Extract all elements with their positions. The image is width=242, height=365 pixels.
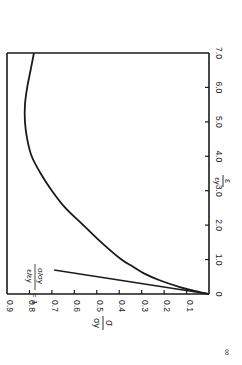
chart: 01.02.03.04.05.06.07.0 0.10.20.30.40.50.… — [0, 0, 242, 365]
elastic-line — [54, 270, 209, 294]
x-tick-label: 0 — [214, 292, 224, 297]
y-axis-label: σ σy — [92, 316, 115, 330]
footer-mark: ∞ — [222, 349, 232, 355]
y-axis-label-denominator: σy — [92, 318, 102, 329]
y-axis-label-numerator: σ — [104, 320, 115, 327]
annotation-numerator: σ/σy — [36, 268, 45, 284]
x-axis-tick-labels: 01.02.03.04.05.06.07.0 — [214, 47, 224, 297]
x-axis-label-denominator: εy — [213, 177, 222, 185]
x-tick-label: 4.0 — [214, 150, 224, 162]
annotation-rhs: = 1 — [30, 293, 39, 305]
plot-frame — [7, 53, 209, 294]
y-tick-label: 0.6 — [72, 300, 82, 312]
data-series — [25, 53, 209, 294]
y-tick-label: 0.5 — [95, 300, 105, 312]
x-tick-label: 2.0 — [214, 219, 224, 231]
annotation-denominator: ε/εy — [25, 269, 34, 282]
y-tick-label: 0.4 — [117, 300, 127, 312]
x-axis-label-numerator: ε — [223, 179, 233, 183]
stress-strain-curve — [25, 53, 209, 294]
y-tick-label: 0.3 — [140, 300, 150, 312]
y-tick-label: 0.1 — [185, 300, 195, 312]
y-tick-label: 0.9 — [5, 300, 15, 312]
y-tick-label: 0.2 — [162, 300, 172, 312]
x-tick-label: 3.0 — [214, 185, 224, 197]
x-tick-label: 6.0 — [214, 82, 224, 94]
x-tick-label: 1.0 — [214, 254, 224, 266]
y-tick-label: 0.7 — [50, 300, 60, 312]
elastic-line-annotation: σ/σy ε/εy = 1 — [25, 264, 45, 305]
x-tick-label: 7.0 — [214, 47, 224, 59]
x-tick-label: 5.0 — [214, 116, 224, 128]
